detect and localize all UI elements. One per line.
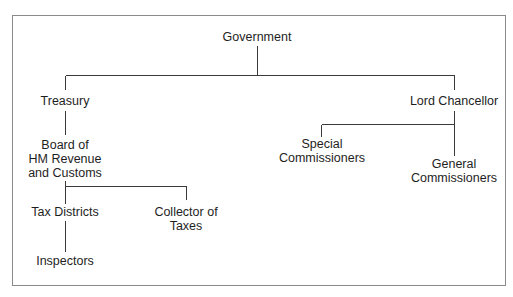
node-inspectors: Inspectors: [36, 254, 94, 268]
node-government: Government: [223, 30, 292, 44]
node-general-commissioners: General Commissioners: [411, 157, 497, 185]
node-lord-chancellor: Lord Chancellor: [410, 94, 498, 108]
node-collector-of-taxes: Collector of Taxes: [154, 205, 217, 233]
node-tax-districts: Tax Districts: [31, 205, 98, 219]
node-treasury: Treasury: [41, 94, 90, 108]
node-special-commissioners: Special Commissioners: [279, 137, 365, 165]
node-board-hmrc: Board of HM Revenue and Customs: [28, 138, 102, 180]
